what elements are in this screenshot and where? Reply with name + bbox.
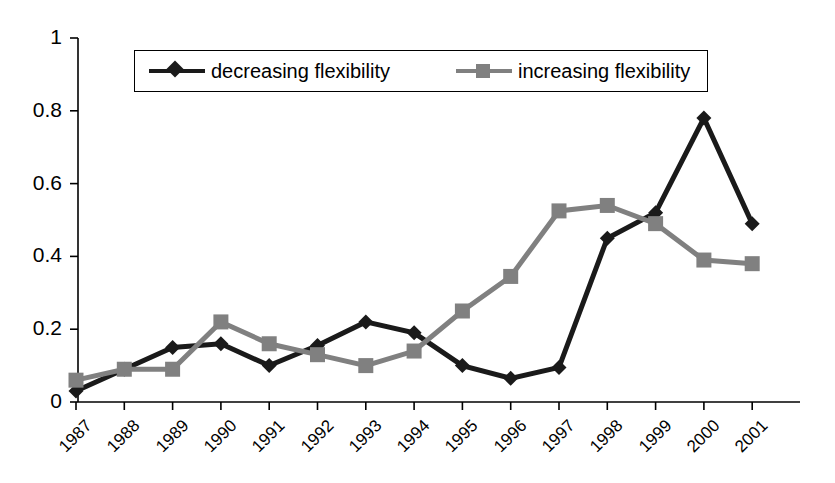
series-group (69, 111, 760, 399)
axes-group (70, 38, 800, 410)
data-point-diamond (213, 336, 228, 351)
legend-label: increasing flexibility (518, 60, 690, 83)
data-point-square (696, 253, 711, 268)
y-tick-label: 1 (0, 25, 62, 49)
chart-legend: decreasing flexibilityincreasing flexibi… (134, 50, 708, 92)
line-chart: 00.20.40.60.81 1987198819891990199119921… (0, 0, 835, 483)
data-point-square (600, 198, 615, 213)
y-tick-label: 0 (0, 389, 62, 413)
data-point-square (648, 216, 663, 231)
y-tick-label: 0.2 (0, 316, 62, 340)
legend-entry-2[interactable]: increasing flexibility (456, 60, 690, 83)
data-point-diamond (503, 371, 518, 386)
data-point-square (552, 203, 567, 218)
y-tick-label: 0.8 (0, 98, 62, 122)
data-point-diamond (262, 358, 277, 373)
legend-square-marker-icon (456, 61, 512, 81)
data-point-diamond (745, 216, 760, 231)
data-point-square (262, 336, 277, 351)
data-point-square (503, 269, 518, 284)
data-point-diamond (552, 360, 567, 375)
legend-diamond-marker-icon (149, 61, 205, 81)
data-point-square (213, 314, 228, 329)
data-point-square (745, 256, 760, 271)
data-point-square (117, 362, 132, 377)
data-point-square (455, 304, 470, 319)
data-point-square (310, 347, 325, 362)
legend-entry-1[interactable]: decreasing flexibility (149, 60, 390, 83)
data-point-square (165, 362, 180, 377)
data-point-square (407, 344, 422, 359)
data-point-diamond (165, 340, 180, 355)
legend-label: decreasing flexibility (211, 60, 390, 83)
data-point-square (69, 373, 84, 388)
y-tick-label: 0.4 (0, 243, 62, 267)
data-point-square (358, 358, 373, 373)
y-tick-label: 0.6 (0, 171, 62, 195)
